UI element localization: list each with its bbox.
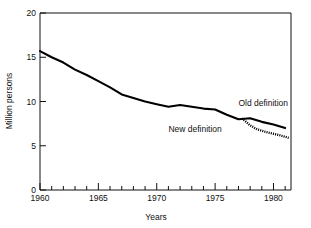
y-tick-label-5: 5 [31, 141, 36, 151]
series-line-old-definition [40, 51, 285, 128]
x-tick-label-1980: 1980 [264, 193, 283, 203]
annotation-new-definition: New definition [168, 124, 222, 134]
x-axis-tick-labels: 1960 1965 1970 1975 1980 [31, 193, 284, 203]
y-axis-ticks [40, 13, 46, 190]
x-tick-label-1960: 1960 [31, 193, 50, 203]
line-chart: 0 5 10 15 20 1960 1965 1970 1975 1980 Ye… [0, 0, 311, 228]
y-tick-label-10: 10 [27, 97, 37, 107]
y-tick-label-15: 15 [27, 52, 37, 62]
x-tick-label-1965: 1965 [89, 193, 108, 203]
y-axis-title: Million persons [4, 73, 14, 130]
x-tick-label-1975: 1975 [206, 193, 225, 203]
x-axis-title: Years [145, 212, 166, 222]
x-axis-ticks [40, 183, 285, 190]
chart-figure: 0 5 10 15 20 1960 1965 1970 1975 1980 Ye… [0, 0, 311, 228]
y-tick-label-20: 20 [27, 8, 37, 18]
x-tick-label-1970: 1970 [147, 193, 166, 203]
y-axis-tick-labels: 0 5 10 15 20 [27, 8, 37, 195]
annotation-old-definition: Old definition [238, 98, 288, 108]
